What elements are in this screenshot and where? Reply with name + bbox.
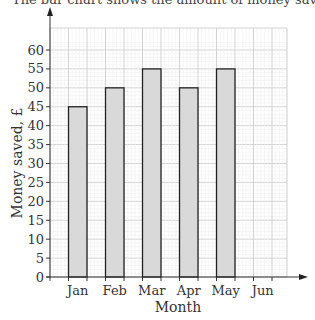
y-tick-label: 25 — [27, 175, 44, 190]
bars — [69, 69, 236, 277]
y-tick-label: 0 — [36, 270, 44, 285]
x-axis-title: Month — [155, 299, 201, 315]
bar-chart: 051015202530354045505560JanFebMarAprMayJ… — [0, 0, 315, 320]
x-tick-label: Jan — [65, 283, 89, 298]
y-tick-label: 60 — [27, 43, 44, 58]
y-tick-label: 30 — [27, 156, 44, 171]
y-tick-label: 5 — [36, 251, 44, 266]
x-tick-label: May — [212, 283, 241, 298]
y-tick-label: 50 — [27, 80, 44, 95]
bar-feb — [106, 88, 125, 277]
y-axis-title: Money saved, £ — [9, 108, 25, 219]
x-tick-label: Jun — [250, 283, 275, 298]
y-tick-label: 35 — [27, 137, 44, 152]
y-tick-label: 10 — [27, 232, 44, 247]
x-tick-label: Mar — [138, 283, 166, 298]
y-tick-label: 40 — [27, 118, 44, 133]
bar-mar — [143, 69, 162, 277]
bar-may — [217, 69, 236, 277]
y-tick-label: 45 — [27, 99, 44, 114]
x-tick-label: Feb — [103, 283, 127, 298]
y-tick-label: 15 — [27, 213, 44, 228]
bar-jan — [69, 107, 88, 277]
x-tick-label: Apr — [176, 283, 202, 298]
y-tick-label: 55 — [27, 61, 44, 76]
y-tick-label: 20 — [27, 194, 44, 209]
bar-apr — [180, 88, 199, 277]
